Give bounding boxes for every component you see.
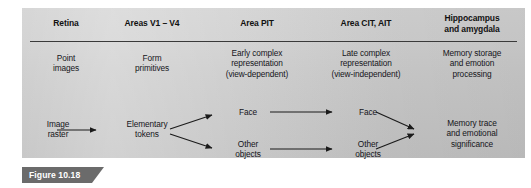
- flow-elementary-tokens-line2: tokens: [135, 129, 159, 139]
- header-divider-rule: [30, 41, 517, 42]
- cell-v1v4-line1: Form: [143, 53, 162, 63]
- cell-pit-line3: (view-dependent): [226, 69, 289, 79]
- flow-memory-trace-line1: Memory trace: [447, 118, 497, 128]
- cell-pit-line2: representation: [231, 58, 283, 68]
- cell-retina-line1: Point: [57, 53, 75, 63]
- flow-pit-other-line2: objects: [235, 149, 261, 159]
- flow-elementary-tokens-line1: Elementary: [127, 119, 168, 129]
- cell-pit-description: Early complex representation (view-depen…: [198, 48, 316, 79]
- cell-cit-ait-line2: representation: [340, 58, 392, 68]
- flow-image-raster-line2: raster: [48, 129, 69, 139]
- flow-memory-trace-line2: and emotional: [447, 128, 498, 138]
- cell-v1v4-description: Form primitives: [97, 53, 207, 74]
- figure-caption-banner: Figure 10.18: [22, 167, 104, 183]
- column-header-area-cit-ait: Area CIT, AIT: [310, 18, 422, 29]
- flow-node-cit-face: Face: [338, 107, 398, 117]
- flow-node-memory-trace: Memory trace and emotional significance: [420, 118, 524, 149]
- cell-cit-ait-line3: (view-independent): [332, 69, 401, 79]
- flow-node-pit-face: Face: [218, 107, 278, 117]
- flow-node-pit-other-objects: Other objects: [218, 139, 278, 160]
- column-header-hippocampus-line2: and amygdala: [444, 24, 500, 34]
- column-header-hippocampus-line1: Hippocampus: [444, 13, 499, 23]
- cell-cit-ait-line1: Late complex: [342, 48, 390, 58]
- column-header-area-cit-ait-label: Area CIT, AIT: [341, 18, 392, 28]
- flow-node-elementary-tokens: Elementary tokens: [108, 119, 186, 140]
- cell-pit-line1: Early complex: [232, 48, 283, 58]
- cell-hippocampus-description: Memory storage and emotion processing: [420, 48, 524, 79]
- flow-node-cit-other-objects: Other objects: [338, 139, 398, 160]
- column-header-retina-label: Retina: [53, 18, 78, 28]
- flow-cit-other-line2: objects: [355, 149, 381, 159]
- figure-panel: Retina Areas V1 – V4 Area PIT Area CIT, …: [22, 8, 525, 158]
- flow-image-raster-line1: Image: [47, 119, 70, 129]
- column-header-areas-v1-v4: Areas V1 – V4: [97, 18, 207, 29]
- flow-pit-face-label: Face: [239, 107, 257, 117]
- column-header-hippocampus-amygdala: Hippocampus and amygdala: [420, 13, 524, 34]
- cell-cit-ait-description: Late complex representation (view-indepe…: [306, 48, 426, 79]
- cell-retina-line2: images: [53, 63, 79, 73]
- cell-hippocampus-line1: Memory storage: [443, 48, 502, 58]
- column-header-areas-v1-v4-label: Areas V1 – V4: [125, 18, 180, 28]
- figure-caption-label: Figure 10.18: [29, 170, 80, 180]
- column-header-area-pit-label: Area PIT: [240, 18, 274, 28]
- flow-node-image-raster: Image raster: [22, 119, 94, 140]
- column-header-area-pit: Area PIT: [202, 18, 312, 29]
- cell-hippocampus-line2: and emotion: [450, 58, 495, 68]
- flow-pit-other-line1: Other: [238, 139, 258, 149]
- flow-memory-trace-line3: significance: [451, 139, 493, 149]
- cell-hippocampus-line3: processing: [452, 69, 491, 79]
- flow-cit-face-label: Face: [359, 107, 377, 117]
- cell-v1v4-line2: primitives: [135, 63, 169, 73]
- flow-cit-other-line1: Other: [358, 139, 378, 149]
